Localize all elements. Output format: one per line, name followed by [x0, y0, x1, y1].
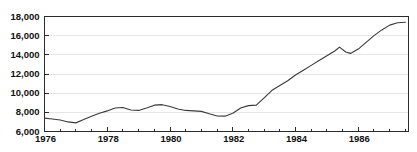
y-axis-tick-label: 12,000 — [10, 68, 39, 79]
chart-canvas: 6,0008,00010,00012,00014,00016,00018,000… — [0, 0, 417, 152]
y-axis-tick-label: 8,000 — [16, 106, 40, 117]
x-axis-tick-label: 1986 — [349, 133, 370, 144]
y-axis-tick-label: 18,000 — [10, 11, 39, 22]
y-axis-tick-label: 16,000 — [10, 30, 39, 41]
x-axis-labels: 197619781980198219841986 — [35, 133, 370, 144]
gridlines — [45, 36, 409, 113]
x-axis-tick-label: 1976 — [35, 133, 56, 144]
data-series-line — [45, 22, 406, 123]
y-tick-marks — [45, 17, 49, 132]
y-axis-tick-label: 10,000 — [10, 87, 39, 98]
line-chart: 6,0008,00010,00012,00014,00016,00018,000… — [0, 0, 417, 152]
y-axis-tick-label: 14,000 — [10, 49, 39, 60]
y-axis-labels: 6,0008,00010,00012,00014,00016,00018,000 — [10, 11, 39, 137]
x-axis-tick-label: 1984 — [286, 133, 308, 144]
x-tick-marks — [45, 127, 406, 132]
x-axis-tick-label: 1982 — [223, 133, 244, 144]
x-axis-tick-label: 1980 — [160, 133, 181, 144]
x-axis-tick-label: 1978 — [98, 133, 119, 144]
